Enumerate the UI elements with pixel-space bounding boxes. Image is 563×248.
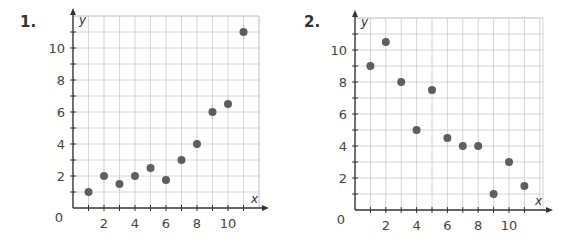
data-point [100,172,108,180]
data-point [397,78,405,86]
data-point [413,126,421,134]
origin-label: 0 [55,210,63,225]
data-point [147,164,155,172]
y-tick-label: 10 [48,41,65,56]
data-point [85,188,93,196]
scatter-chart-2: 2468102468100xy [330,10,553,233]
x-axis-label: x [534,194,543,208]
x-axis-arrow-icon [262,205,269,211]
data-point [520,182,528,190]
data-point [116,180,124,188]
data-point [209,108,217,116]
y-tick-label: 10 [330,43,347,58]
data-point [162,176,170,184]
data-point [178,156,186,164]
data-point [459,142,467,150]
x-axis-arrow-icon [546,207,553,213]
data-point [240,28,248,36]
data-point [382,38,390,46]
data-point [443,134,451,142]
scatter-charts: 2468102468100xy 2468102468100xy [0,0,563,248]
y-tick-label: 4 [339,139,347,154]
scatter-chart-1: 2468102468100xy [48,8,269,231]
y-tick-label: 2 [57,169,65,184]
x-tick-label: 8 [193,216,201,231]
y-tick-label: 8 [339,75,347,90]
x-tick-label: 4 [412,218,420,233]
y-axis-label: y [78,13,87,27]
y-tick-label: 4 [57,137,65,152]
data-point [131,172,139,180]
data-point [193,140,201,148]
x-tick-label: 2 [382,218,390,233]
data-point [505,158,513,166]
y-tick-label: 2 [339,171,347,186]
x-tick-label: 4 [131,216,139,231]
y-axis-arrow-icon [352,10,358,17]
x-tick-label: 6 [443,218,451,233]
x-axis-label: x [250,192,259,206]
x-tick-label: 10 [501,218,518,233]
y-tick-label: 6 [339,107,347,122]
y-axis-arrow-icon [70,8,76,15]
y-tick-label: 6 [57,105,65,120]
data-point [474,142,482,150]
data-point [366,62,374,70]
x-tick-label: 6 [162,216,170,231]
data-point [224,100,232,108]
x-tick-label: 10 [220,216,237,231]
x-tick-label: 2 [100,216,108,231]
data-point [490,190,498,198]
data-point [428,86,436,94]
y-tick-label: 8 [57,73,65,88]
origin-label: 0 [337,212,345,227]
x-tick-label: 8 [474,218,482,233]
y-axis-label: y [360,15,369,29]
